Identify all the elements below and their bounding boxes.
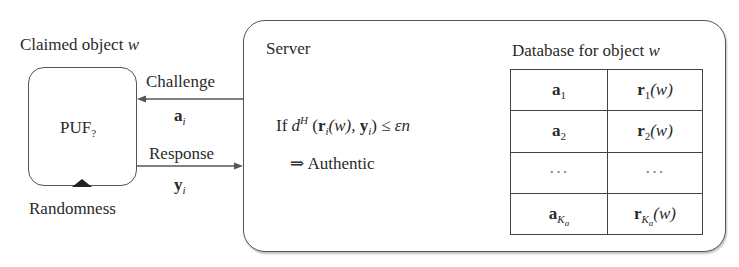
challenge-arrow xyxy=(137,96,243,103)
response-arrow xyxy=(137,163,243,170)
arrowhead-right-icon xyxy=(234,163,243,170)
connector-layer xyxy=(0,0,739,267)
randomness-triangle-icon xyxy=(72,179,92,187)
arrowhead-left-icon xyxy=(137,96,146,103)
